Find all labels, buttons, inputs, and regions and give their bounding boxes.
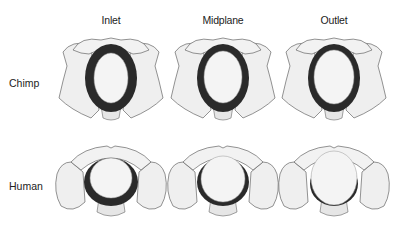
chimp-midplane-figure [171, 38, 275, 120]
pelvis-illustration [0, 0, 403, 244]
human-inlet-figure [56, 146, 167, 216]
chimp-outlet-figure [282, 38, 386, 120]
chimp-inlet-figure [59, 38, 163, 120]
human-outlet-figure [279, 146, 390, 216]
human-midplane-figure [168, 146, 279, 216]
